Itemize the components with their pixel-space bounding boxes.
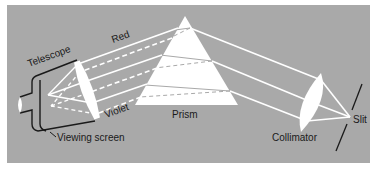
label-collimator: Collimator bbox=[272, 132, 318, 143]
spectroscope-diagram: Red Telescope Violet Prism Viewing scree… bbox=[0, 0, 377, 171]
label-slit: Slit bbox=[353, 114, 367, 125]
label-prism: Prism bbox=[172, 109, 198, 120]
label-viewing-screen: Viewing screen bbox=[57, 132, 125, 143]
